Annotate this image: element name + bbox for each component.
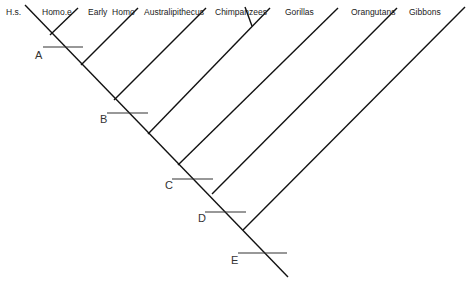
node-label-a: A xyxy=(35,50,42,61)
taxon-label-gorillas: Gorillas xyxy=(285,8,314,17)
taxon-label-australopithecus: Australipithecus xyxy=(144,8,204,17)
taxon-label-early-homo: Early Homo xyxy=(88,8,135,17)
node-label-c: C xyxy=(165,180,173,191)
node-label-b: B xyxy=(100,114,107,125)
branch-gibbons xyxy=(243,7,465,230)
taxon-label-gibbons: Gibbons xyxy=(409,8,441,17)
branch-orangutans xyxy=(212,8,397,194)
taxon-label-chimpanzees: Chimpanzees xyxy=(215,8,267,17)
cladogram-lines xyxy=(0,0,468,290)
branch-chimpanzees xyxy=(148,8,270,134)
main-trunk-line xyxy=(25,5,288,277)
node-label-e: E xyxy=(231,255,238,266)
taxon-label-homo-e: Homo.e xyxy=(42,8,72,17)
node-label-d: D xyxy=(198,213,206,224)
branch-gorillas xyxy=(178,8,338,165)
branch-australopithecus xyxy=(114,8,206,100)
taxon-label-hs: H.s. xyxy=(6,8,21,17)
taxon-label-orangutans: Orangutans xyxy=(351,8,395,17)
